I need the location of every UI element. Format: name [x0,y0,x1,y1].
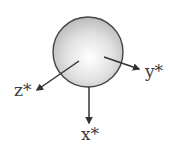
z-axis-label: z* [14,80,32,100]
y-axis-label: y* [144,61,164,81]
x-axis-label: x* [81,124,100,144]
coordinate-diagram: x* y* z* [0,0,174,151]
sphere [53,17,123,87]
